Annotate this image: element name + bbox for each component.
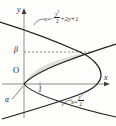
x-tick-label-1: 1 (38, 86, 42, 94)
shaded-region (24, 52, 92, 84)
equation-denominator-bottom: 2 (78, 101, 84, 107)
x-axis-arrowhead (104, 82, 110, 87)
origin-label: O (13, 66, 19, 75)
alpha-leader-line (12, 86, 23, 99)
equation-numerator-exponent-bottom: 2 (81, 93, 83, 97)
equation-left-opening-parabola: x=− y2 2 +2y+1 (44, 10, 79, 24)
y-axis-arrowhead (22, 8, 27, 14)
y-tick-label-alpha: α (5, 96, 9, 104)
leader-line-top-equation (34, 19, 44, 25)
x-axis-label: x (104, 74, 108, 82)
equation-right-opening-parabola: x= y2 2 (71, 93, 84, 107)
equation-tail-top: +2y+1 (60, 15, 78, 22)
figure-canvas: y x O β α 1 x=− y2 2 +2y+1 x= y2 2 (0, 0, 116, 126)
parabola-opens-left-lower (2, 75, 101, 119)
y-axis-label: y (17, 6, 21, 14)
parabola-opens-right-upper (24, 44, 116, 84)
equation-numerator-exponent-top: 2 (58, 10, 60, 14)
equation-fraction-bottom: y2 2 (78, 93, 84, 107)
equation-numerator-bottom: y2 (78, 93, 84, 101)
y-tick-label-beta: β (14, 46, 18, 54)
